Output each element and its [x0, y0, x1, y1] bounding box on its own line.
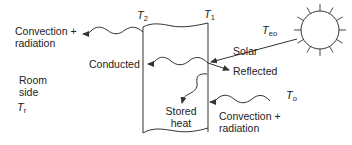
room-side-label: Room side — [19, 74, 47, 98]
reflected-arrow — [208, 63, 229, 70]
outside-temp-label: To — [286, 89, 297, 105]
conducted-arrow — [148, 57, 208, 65]
sun-icon — [294, 4, 346, 56]
wall-outer-temp-label: T1 — [204, 8, 215, 24]
room-temp-label: Tr — [17, 101, 26, 117]
stored-heat-arrow — [182, 74, 207, 103]
convection-radiation-in-arrow — [210, 95, 270, 103]
stored-heat-label: Stored heat — [160, 105, 202, 129]
sun-temp-label: Teo — [262, 24, 277, 40]
reflected-label: Reflected — [233, 65, 277, 77]
convection-radiation-out-label: Convection + radiation — [15, 25, 77, 49]
convection-radiation-in-label: Convection + radiation — [219, 110, 281, 134]
solar-label: Solar — [233, 45, 258, 57]
convection-radiation-out-arrow — [83, 27, 143, 34]
wall-top-break — [143, 23, 208, 27]
conducted-label: Conducted — [89, 58, 140, 70]
wall-heat-flow-diagram: T2 T1 Teo Tr To Convection + radiation C… — [0, 0, 352, 145]
wall-inner-temp-label: T2 — [137, 9, 148, 25]
